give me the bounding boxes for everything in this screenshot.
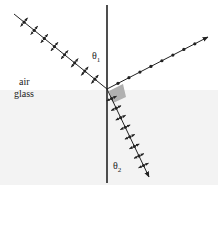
theta2-subscript: 2 bbox=[118, 166, 122, 174]
theta2-label: θ2 bbox=[113, 161, 121, 174]
glass-region bbox=[0, 90, 218, 185]
theta1-subscript: 1 bbox=[97, 56, 101, 64]
reflected-ray bbox=[107, 37, 208, 89]
glass-label: glass bbox=[14, 89, 34, 99]
theta1-label: θ1 bbox=[92, 51, 100, 64]
air-label: air bbox=[19, 77, 30, 87]
